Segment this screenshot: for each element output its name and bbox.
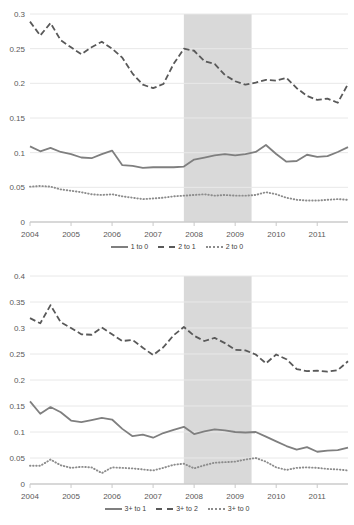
legend-swatch-dotted [208,508,225,510]
x-axis-tick-label: 2004 [21,230,39,239]
x-axis-tick-label: 2008 [185,492,203,501]
legend-swatch-dashed [156,508,173,510]
x-axis-tick-label: 2006 [103,492,121,501]
legend-label: 2 to 0 [226,243,244,250]
y-axis-tick-label: 0.35 [9,298,25,307]
x-axis-tick-label: 2010 [267,492,285,501]
x-axis-tick-label: 2005 [62,230,80,239]
legend-label: 1 to 0 [131,243,149,250]
legend-swatch-dotted [206,246,223,248]
y-axis-tick-label: 0.3 [14,10,26,19]
legend-swatch-solid [105,508,122,510]
legend-entry[interactable]: 2 to 1 [158,243,196,250]
y-axis-tick-label: 0.1 [14,428,26,437]
x-axis-tick-label: 2009 [226,230,244,239]
y-axis-tick-label: 0.25 [9,45,25,54]
legend-label: 2 to 1 [178,243,196,250]
legend-entry[interactable]: 2 to 0 [206,243,244,250]
y-axis-tick-label: 0.25 [9,350,25,359]
legend-swatch-dashed [158,246,175,248]
y-axis-tick-label: 0.3 [14,324,26,333]
x-axis-tick-label: 2008 [185,230,203,239]
x-axis-tick-label: 2004 [21,492,39,501]
legend-swatch-solid [111,246,128,248]
chart-panel-bottom: 00.050.10.150.20.250.30.350.420042005200… [0,262,354,525]
legend-entry[interactable]: 3+ to 1 [105,505,147,512]
line-chart-top: 00.050.10.150.20.250.3200420052006200720… [0,0,354,245]
x-axis-tick-label: 2010 [267,230,285,239]
y-axis-tick-label: 0.15 [9,402,25,411]
x-axis-tick-label: 2011 [309,230,327,239]
legend-entry[interactable]: 3+ to 0 [208,505,250,512]
chart-figure: 00.050.10.150.20.250.3200420052006200720… [0,0,354,525]
legend-top: 1 to 02 to 12 to 0 [0,243,354,250]
y-axis-tick-label: 0.1 [14,149,26,158]
y-axis-tick-label: 0.05 [9,454,25,463]
y-axis-tick-label: 0.15 [9,114,25,123]
legend-entry[interactable]: 3+ to 2 [156,505,198,512]
legend-label: 3+ to 2 [176,505,198,512]
y-axis-tick-label: 0 [21,480,26,489]
x-axis-tick-label: 2011 [309,492,327,501]
chart-panel-top: 00.050.10.150.20.250.3200420052006200720… [0,0,354,262]
legend-label: 3+ to 0 [228,505,250,512]
line-chart-bottom: 00.050.10.150.20.250.30.350.420042005200… [0,262,354,507]
legend-label: 3+ to 1 [125,505,147,512]
x-axis-tick-label: 2007 [144,230,162,239]
legend-entry[interactable]: 1 to 0 [111,243,149,250]
x-axis-tick-label: 2006 [103,230,121,239]
legend-bottom: 3+ to 13+ to 23+ to 0 [0,505,354,512]
y-axis-tick-label: 0.2 [14,79,26,88]
x-axis-tick-label: 2005 [62,492,80,501]
y-axis-tick-label: 0.05 [9,183,25,192]
x-axis-tick-label: 2009 [226,492,244,501]
y-axis-tick-label: 0.2 [14,376,26,385]
y-axis-tick-label: 0.4 [14,272,26,281]
y-axis-tick-label: 0 [21,218,26,227]
x-axis-tick-label: 2007 [144,492,162,501]
